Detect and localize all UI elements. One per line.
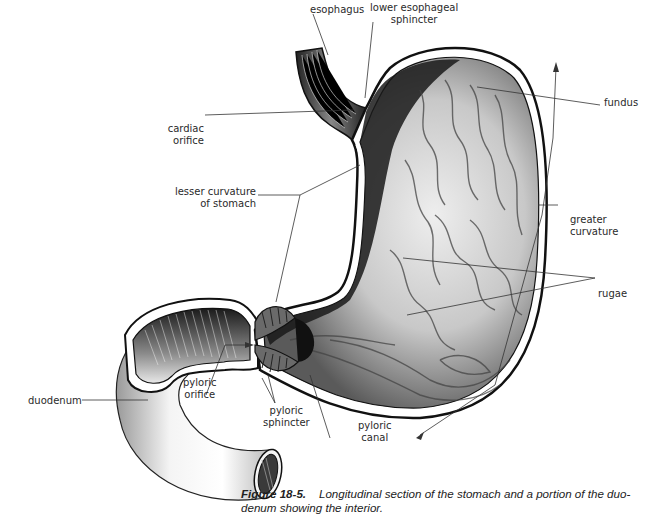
greater-curvature-line1: greater (570, 214, 618, 226)
pyloric-sphincter-line1: pyloric (263, 405, 310, 417)
pyloric-canal-line2: canal (358, 432, 392, 444)
label-greater-curvature: greater curvature (570, 214, 618, 238)
pyloric-orifice-line1: pyloric (183, 377, 217, 389)
label-rugae: rugae (598, 288, 627, 300)
figure-number: Figure 18-5. (241, 487, 306, 500)
label-lesser-curvature: lesser curvature of stomach (170, 186, 256, 210)
duodenum-text: duodenum (28, 395, 82, 406)
cardiac-line2: orifice (160, 135, 204, 147)
lesser-curvature-line2: of stomach (170, 198, 256, 210)
pyloric-canal-line1: pyloric (358, 420, 392, 432)
lesser-curvature-line1: lesser curvature (170, 186, 256, 198)
les-line2: sphincter (370, 14, 458, 26)
stomach-illustration (0, 0, 652, 530)
label-pyloric-canal: pyloric canal (358, 420, 392, 444)
fundus-text: fundus (604, 97, 638, 108)
label-pyloric-sphincter: pyloric sphincter (263, 405, 310, 429)
label-lower-esophageal-sphincter: lower esophageal sphincter (370, 2, 458, 26)
label-duodenum: duodenum (28, 395, 82, 407)
greater-curvature-line2: curvature (570, 226, 618, 238)
esophagus-tube (296, 48, 366, 140)
pyloric-sphincter-line2: sphincter (263, 417, 310, 429)
esophagus-text: esophagus (310, 4, 364, 15)
label-cardiac-orifice: cardiac orifice (160, 123, 204, 147)
label-fundus: fundus (604, 97, 638, 109)
pyloric-orifice-line2: orifice (183, 389, 217, 401)
les-line1: lower esophageal (370, 2, 458, 14)
caption-line2: denum showing the interior. (241, 501, 383, 514)
label-esophagus: esophagus (310, 4, 364, 16)
cardiac-line1: cardiac (160, 123, 204, 135)
stomach-body (255, 48, 547, 418)
rugae-text: rugae (598, 288, 627, 299)
caption-line1: Longitudinal section of the stomach and … (319, 487, 630, 500)
figure-caption: Figure 18-5. Longitudinal section of the… (241, 487, 641, 515)
label-pyloric-orifice: pyloric orifice (183, 377, 217, 401)
